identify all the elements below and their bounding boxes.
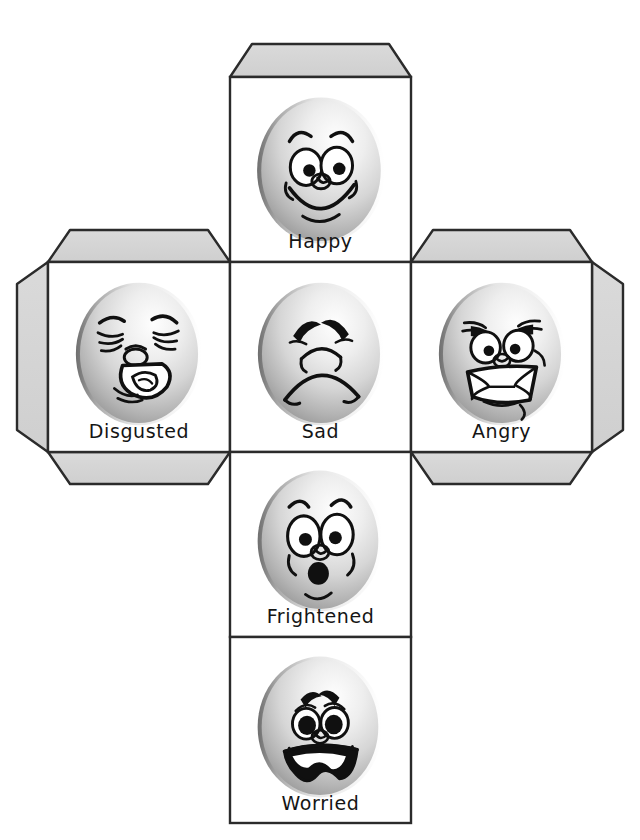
frightened-face <box>258 471 383 612</box>
happy-face <box>257 97 385 243</box>
flap-right-angry <box>592 262 623 452</box>
panel-label-disgusted: Disgusted <box>89 420 189 442</box>
cube-net-diagram: Happy Disgusted Sad <box>0 0 640 840</box>
panel-label-sad: Sad <box>302 420 340 442</box>
flap-top-happy <box>230 44 411 77</box>
flap-left-disgusted <box>17 262 48 452</box>
worried-face <box>258 657 383 798</box>
panel-label-frightened: Frightened <box>267 605 375 627</box>
flap-top-disgusted <box>48 230 230 262</box>
panel-label-happy: Happy <box>288 230 352 252</box>
flap-top-angry <box>411 230 592 262</box>
net-panels: Happy Disgusted Sad <box>48 77 592 823</box>
sad-face <box>258 283 384 426</box>
panel-sad[interactable]: Sad <box>230 262 411 452</box>
worksheet-page: Happy Disgusted Sad <box>0 0 640 840</box>
panel-angry[interactable]: Angry <box>411 262 592 452</box>
panel-label-angry: Angry <box>472 420 531 442</box>
panel-disgusted[interactable]: Disgusted <box>48 262 230 452</box>
panel-happy[interactable]: Happy <box>230 77 411 262</box>
panel-frightened[interactable]: Frightened <box>230 452 411 637</box>
angry-face <box>439 283 565 426</box>
panel-worried[interactable]: Worried <box>230 637 411 823</box>
panel-label-worried: Worried <box>282 792 360 814</box>
flap-bottom-angry <box>411 452 592 484</box>
disgusted-face <box>76 283 202 426</box>
flap-bottom-disgusted <box>48 452 230 484</box>
